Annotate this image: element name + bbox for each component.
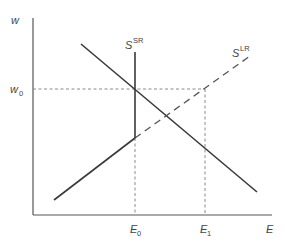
w0-label: w xyxy=(10,83,19,95)
x-axis-label: E xyxy=(266,223,274,235)
e0-subscript: 0 xyxy=(137,229,141,238)
supply-curve-solid xyxy=(54,138,135,200)
e1-subscript: 1 xyxy=(207,229,211,238)
short-run-supply-superscript: SR xyxy=(133,36,144,45)
w0-subscript: 0 xyxy=(19,89,23,98)
y-axis-label: w xyxy=(11,14,20,26)
labor-market-diagram: w E w 0 E 0 E 1 S SR S LR xyxy=(0,0,285,244)
long-run-supply-superscript: LR xyxy=(240,44,250,53)
long-run-supply-label: S xyxy=(232,47,240,59)
short-run-supply-label: S xyxy=(125,39,133,51)
long-run-supply-curve xyxy=(135,56,250,138)
demand-curve xyxy=(81,44,257,192)
